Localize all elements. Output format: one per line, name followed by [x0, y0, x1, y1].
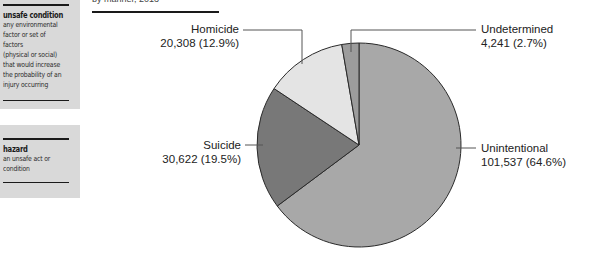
label-suicide-value: 30,622 (19.5%) — [162, 152, 241, 166]
label-undetermined-name: Undetermined — [481, 22, 553, 36]
homicide-leader-line — [243, 30, 302, 64]
label-suicide-name: Suicide — [162, 138, 241, 152]
label-undetermined: Undetermined 4,241 (2.7%) — [481, 22, 553, 50]
label-homicide-name: Homicide — [160, 22, 239, 36]
label-homicide: Homicide 20,308 (12.9%) — [160, 22, 239, 50]
label-suicide: Suicide 30,622 (19.5%) — [162, 138, 241, 166]
label-unintentional-name: Unintentional — [481, 141, 566, 155]
label-unintentional: Unintentional 101,537 (64.6%) — [481, 141, 566, 169]
label-homicide-value: 20,308 (12.9%) — [160, 36, 239, 50]
label-unintentional-value: 101,537 (64.6%) — [481, 155, 566, 169]
label-undetermined-value: 4,241 (2.7%) — [481, 36, 553, 50]
